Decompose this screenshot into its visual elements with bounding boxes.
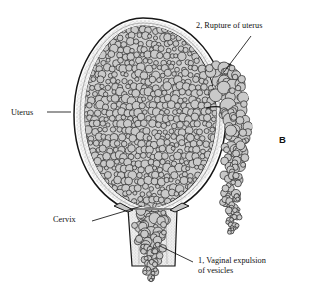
- label-rupture-of-uterus: 2, Rupture of uterus: [196, 21, 262, 31]
- label-vaginal-expulsion: 1, Vaginal expulsion of vesicles: [198, 256, 298, 276]
- label-vaginal-expulsion-line2: of vesicles: [198, 266, 233, 275]
- cervix-and-vagina: [114, 200, 189, 281]
- label-panel-b: B: [279, 135, 286, 145]
- figure-panel: 2, Rupture of uterus Uterus Cervix B 1, …: [0, 0, 309, 293]
- label-uterus: Uterus: [11, 108, 33, 118]
- leader-rupture: [224, 36, 251, 72]
- hydatidiform-mole-illustration: [0, 0, 309, 293]
- label-cervix: Cervix: [53, 215, 76, 225]
- label-vaginal-expulsion-line1: 1, Vaginal expulsion: [198, 256, 266, 265]
